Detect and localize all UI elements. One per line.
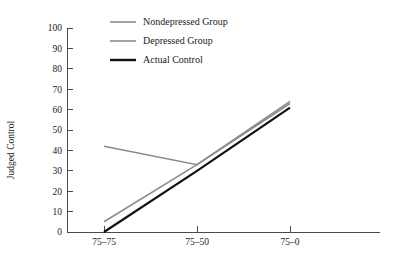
series-line-nondepressed-group (104, 103, 290, 164)
y-tick-label: 50 (53, 125, 63, 135)
y-tick-label: 60 (53, 105, 63, 115)
line-chart-canvas: 0102030405060708090100 75–7575–5075–0 Ju… (0, 0, 394, 262)
y-tick-label: 0 (57, 227, 62, 237)
y-tick-label: 40 (53, 146, 63, 156)
legend-label: Depressed Group (143, 35, 213, 46)
x-tick-label: 75–75 (92, 237, 116, 247)
y-tick-label: 10 (53, 207, 63, 217)
y-tick-label: 20 (53, 187, 63, 197)
chart-legend: Nondepressed GroupDepressed GroupActual … (110, 16, 228, 65)
x-axis-ticks: 75–7575–5075–0 (92, 226, 300, 247)
y-tick-label: 100 (48, 23, 63, 33)
series-line-actual-control (104, 108, 290, 232)
legend-label: Actual Control (143, 54, 203, 65)
series-line-depressed-group (104, 101, 290, 221)
y-tick-label: 80 (53, 64, 63, 74)
x-tick-label: 75–0 (281, 237, 300, 247)
legend-label: Nondepressed Group (143, 16, 228, 27)
x-tick-label: 75–50 (185, 237, 209, 247)
y-tick-label: 30 (53, 166, 63, 176)
y-axis-ticks: 0102030405060708090100 (48, 23, 73, 237)
chart-figure: 0102030405060708090100 75–7575–5075–0 Ju… (0, 0, 394, 262)
y-axis-title: Judged Control (6, 120, 16, 179)
y-tick-label: 70 (53, 85, 63, 95)
y-tick-label: 90 (53, 44, 63, 54)
data-series-group (104, 101, 290, 232)
